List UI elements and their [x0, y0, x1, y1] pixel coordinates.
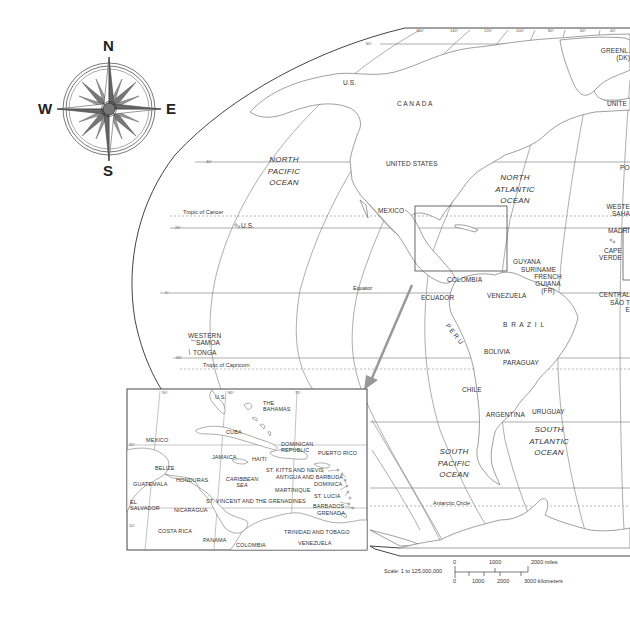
degree-label: 160° — [416, 29, 424, 33]
ocean-label-line: NORTH — [494, 172, 536, 184]
inset-label-venezuela: VENEZUELA — [298, 540, 332, 546]
ocean-label-line: OCEAN — [434, 469, 474, 481]
inset-label-colombia: COLOMBIA — [236, 542, 266, 548]
ocean-label-line: OCEAN — [264, 177, 304, 189]
ocean-label-line: NORTH — [264, 154, 304, 166]
label-line: SALVADOR — [130, 505, 160, 511]
ocean-label-north-pacific: NORTH PACIFIC OCEAN — [264, 154, 304, 189]
inset-label-belize: BELIZE — [155, 465, 175, 471]
degree-label: 0° — [165, 291, 169, 295]
label-line: REPUBLIC — [281, 447, 313, 453]
label-line: FRENCH — [532, 273, 564, 280]
label-brazil: B R A Z I L — [503, 321, 545, 328]
ocean-label-line: ATLANTIC — [494, 184, 536, 196]
degree-label: 140° — [450, 29, 458, 33]
inset-label-grenada: GRENADA — [317, 510, 345, 516]
scale-miles-tick: 1000 — [489, 559, 501, 565]
label-line: GUIANA — [532, 280, 564, 287]
inset-label-costa-rica: COSTA RICA — [158, 528, 192, 534]
label-line: CAPE — [596, 247, 622, 254]
label-line: WESTERN — [188, 332, 221, 339]
compass-rose — [57, 57, 161, 161]
label-line: SÃO T — [600, 299, 630, 306]
label-line: WESTE — [596, 203, 630, 210]
tropic-of-capricorn-label: Tropic of Capricorn — [203, 362, 250, 368]
label-line: GREENL. — [594, 47, 630, 54]
inset-label-martinique: MARTINIQUE — [275, 487, 310, 493]
inset-label-st-lucia: ST. LUCIA — [314, 493, 341, 499]
label-line: SAHA — [596, 210, 630, 217]
world-map-americas — [0, 0, 630, 618]
degree-label: 100° — [516, 29, 524, 33]
inset-label-haiti: HAITI — [252, 456, 267, 462]
inset-label-puerto-rico: PUERTO RICO — [318, 450, 357, 456]
inset-label-barbados: BARBADOS — [313, 503, 344, 509]
degree-label: 120° — [484, 29, 492, 33]
degree-label: 20° — [175, 226, 181, 230]
compass-east-label: E — [166, 100, 176, 117]
degree-label: 40° — [610, 29, 616, 33]
label-uruguay: URUGUAY — [532, 408, 565, 415]
compass-north-label: N — [103, 37, 114, 54]
label-line: SEA — [222, 482, 262, 488]
label-argentina: ARGENTINA — [486, 411, 525, 418]
ocean-label-north-atlantic: NORTH ATLANTIC OCEAN — [494, 172, 536, 207]
scale-km-tick: 2000 — [497, 578, 509, 584]
label-greenland: GREENL. (DK) — [594, 47, 630, 61]
ocean-label-line: ATLANTIC — [528, 436, 570, 448]
scale-bar — [455, 566, 528, 578]
degree-label: 60° — [580, 29, 586, 33]
tropic-of-cancer-label: Tropic of Cancer — [183, 209, 223, 215]
ocean-label-line: PACIFIC — [264, 166, 304, 178]
scale-miles-tick: 0 — [453, 559, 456, 565]
inset-label-dominica: DOMINICA — [314, 481, 342, 487]
label-western-samoa: WESTERN SAMOA — [188, 332, 221, 346]
degree-label: 60° — [366, 42, 372, 46]
label-us-hawaii: U.S. — [241, 222, 254, 229]
inset-label-st-vincent: ST. VINCENT AND THE GRENADINES — [206, 498, 306, 504]
inset-label-guatemala: GUATEMALA — [133, 481, 167, 487]
antarctic-circle-label: Antarctic Circle — [433, 500, 470, 506]
inset-label-caribbean-sea: CARIBBEAN SEA — [222, 476, 262, 488]
label-venezuela: VENEZUELA — [487, 292, 527, 299]
label-chile: CHILE — [462, 386, 482, 393]
ocean-label-line: OCEAN — [528, 447, 570, 459]
degree-label: 20° — [176, 356, 182, 360]
inset-label-dominican-republic: DOMINICAN REPUBLIC — [281, 441, 313, 453]
equator-label: Equator — [353, 285, 372, 291]
inset-label-nicaragua: NICARAGUA — [174, 507, 208, 513]
label-guyana: GUYANA — [513, 258, 541, 265]
scale-km-tick: 1000 — [472, 578, 484, 584]
inset-label-el-salvador: EL SALVADOR — [130, 499, 160, 511]
ocean-label-line: SOUTH — [528, 424, 570, 436]
label-western-sahara: WESTE SAHA — [596, 203, 630, 217]
label-cape-verde: CAPE VERDE — [596, 247, 622, 261]
inset-label-us: U.S. — [215, 394, 226, 400]
inset-label-antigua-barbuda: ANTIGUA AND BARBUDA — [276, 474, 343, 480]
scale-km-tick: 0 — [453, 578, 456, 584]
inset-degree-label: 80° — [228, 391, 234, 395]
label-line: BAHAMAS — [263, 406, 291, 412]
inset-degree-label: 90° — [162, 391, 168, 395]
inset-degree-label: 10° — [129, 524, 135, 528]
inset-degree-label: 20° — [129, 443, 135, 447]
label-line: (FR) — [532, 287, 564, 294]
inset-label-st-kitts-nevis: ST. KITTS AND NEVIS — [266, 467, 324, 473]
inset-label-honduras: HONDURAS — [176, 477, 208, 483]
label-line: (DK) — [594, 54, 630, 61]
inset-label-bahamas: THE BAHAMAS — [263, 400, 291, 412]
ocean-label-south-atlantic: SOUTH ATLANTIC OCEAN — [528, 424, 570, 459]
inset-label-panama: PANAMA — [203, 537, 226, 543]
ocean-label-line: PACIFIC — [434, 458, 474, 470]
inset-label-jamaica: JAMAICA — [212, 454, 237, 460]
label-mexico: MEXICO — [378, 207, 404, 214]
inset-label-trinidad-tobago: TRINIDAD AND TOBAGO — [284, 529, 350, 535]
label-colombia: COLOMBIA — [447, 276, 482, 283]
label-madrid: MADRI — [608, 227, 629, 234]
inset-arrow — [364, 285, 412, 390]
label-line: SAMOA — [188, 339, 221, 346]
label-sao-tome: SÃO T E — [600, 299, 630, 313]
scale-miles-tick: 2000 miles — [531, 559, 558, 565]
inset-degree-label: 70° — [295, 391, 301, 395]
label-line: E — [600, 306, 630, 313]
